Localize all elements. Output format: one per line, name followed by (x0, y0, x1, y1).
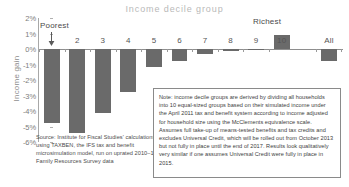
x-axis-label-5: 5 (152, 36, 157, 45)
x-axis-tick-mark (341, 49, 342, 52)
y-axis-tick-label: 1% (14, 29, 36, 38)
x-axis-label-2: 2 (75, 36, 80, 45)
y-axis-tick-label: 0% (14, 45, 36, 54)
x-axis-label-4: 4 (126, 36, 131, 45)
poorest-arrow-icon (47, 32, 56, 46)
y-axis-tick-label: -5% (14, 122, 36, 131)
bar-8[interactable] (223, 49, 239, 51)
y-axis-tick-group: 2%1%0%-1%-2%-3%-4%-5%-6% (14, 0, 38, 187)
y-axis-tick-label: 2% (14, 14, 36, 23)
x-axis-label-all: All (324, 36, 334, 45)
x-axis-tick-mark (116, 49, 117, 52)
x-axis-tick-mark (65, 49, 66, 52)
y-axis-tick-label: -2% (14, 76, 36, 85)
x-axis-tick-mark (269, 49, 270, 52)
y-axis-tick-label: -4% (14, 107, 36, 116)
bar-4[interactable] (120, 49, 136, 92)
bar-3[interactable] (95, 49, 111, 113)
x-axis-label-10: 10 (277, 36, 286, 45)
x-axis-tick-mark (39, 49, 40, 52)
y-axis-tick-label: -6% (14, 138, 36, 147)
x-axis-tick-mark (141, 49, 142, 52)
note-box: Note: income decile groups are derived b… (153, 88, 341, 178)
bar-9[interactable] (248, 49, 264, 50)
y-axis-spine (38, 18, 39, 142)
bar-5[interactable] (146, 49, 162, 67)
chart-title: Income decile group (0, 4, 349, 14)
x-axis-tick-mark (243, 49, 244, 52)
poorest-annotation-label: Poorest (40, 21, 69, 30)
x-axis-label-7: 7 (203, 36, 208, 45)
source-note: Source: Institute for Fiscal Studies' ca… (36, 133, 158, 165)
x-axis-label-6: 6 (177, 36, 182, 45)
x-axis-tick-mark (192, 49, 193, 52)
x-axis-tick-mark (218, 49, 219, 52)
x-axis-tick-mark (90, 49, 91, 52)
x-axis-label-8: 8 (228, 36, 233, 45)
bar-1[interactable] (44, 49, 60, 123)
note-text: Note: income decile groups are derived b… (159, 93, 335, 167)
richest-annotation-label: Richest (253, 17, 281, 26)
x-axis-label-9: 9 (254, 36, 259, 45)
bar-7[interactable] (197, 49, 213, 54)
y-axis-tick-label: -1% (14, 60, 36, 69)
bar-all[interactable] (321, 49, 337, 61)
y-axis-tick-label: -3% (14, 91, 36, 100)
bar-6[interactable] (172, 49, 188, 61)
income-decile-chart: Income decile group Income gain 2%1%0%-1… (0, 0, 349, 187)
x-axis-tick-mark (316, 49, 317, 52)
bar-2[interactable] (69, 49, 85, 133)
x-axis-tick-mark (167, 49, 168, 52)
x-axis-label-3: 3 (101, 36, 106, 45)
